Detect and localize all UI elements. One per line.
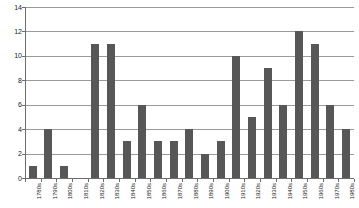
x-tick-label: 1790s — [52, 183, 58, 199]
y-tick-mark — [22, 7, 25, 8]
bar[interactable] — [185, 129, 193, 178]
x-tick-mark — [354, 179, 355, 182]
x-tick-label: 1920s — [255, 183, 261, 199]
bar[interactable] — [232, 56, 240, 178]
bar-chart: 02468101214 1780s1790s1800s1810s1820s183… — [0, 0, 359, 208]
x-tick-label: 1870s — [177, 183, 183, 199]
x-tick-label: 1960s — [318, 183, 324, 199]
x-tick-mark — [182, 179, 183, 182]
bar[interactable] — [217, 141, 225, 178]
bar-slot[interactable] — [25, 7, 41, 178]
x-tick-label: 1840s — [130, 183, 136, 199]
x-tick-mark — [307, 179, 308, 182]
y-tick-mark — [22, 154, 25, 155]
x-tick-label: 1950s — [302, 183, 308, 199]
x-tick-mark — [260, 179, 261, 182]
x-tick-label: 1850s — [146, 183, 152, 199]
bar[interactable] — [44, 129, 52, 178]
bar-slot[interactable] — [135, 7, 151, 178]
x-tick-mark — [276, 179, 277, 182]
bar-slot[interactable] — [41, 7, 57, 178]
x-tick-mark — [72, 179, 73, 182]
x-tick-mark — [213, 179, 214, 182]
bar-slot[interactable] — [182, 7, 198, 178]
bar-slot[interactable] — [150, 7, 166, 178]
bar-slot[interactable] — [56, 7, 72, 178]
x-tick-label: 1880s — [193, 183, 199, 199]
y-tick-mark — [22, 56, 25, 57]
bar[interactable] — [264, 68, 272, 178]
x-tick-label: 1910s — [240, 183, 246, 199]
bar[interactable] — [326, 105, 334, 178]
y-tick-label: 2 — [2, 150, 22, 157]
x-tick-mark — [291, 179, 292, 182]
bar-slot[interactable] — [213, 7, 229, 178]
bar[interactable] — [170, 141, 178, 178]
x-tick-mark — [323, 179, 324, 182]
x-tick-label: 1830s — [114, 183, 120, 199]
bar[interactable] — [279, 105, 287, 178]
bar-slot[interactable] — [166, 7, 182, 178]
x-tick-label: 1890s — [208, 183, 214, 199]
bar[interactable] — [295, 31, 303, 178]
bar[interactable] — [138, 105, 146, 178]
x-tick-label: 1930s — [271, 183, 277, 199]
bar-slot[interactable] — [229, 7, 245, 178]
bar-slot[interactable] — [119, 7, 135, 178]
bar[interactable] — [248, 117, 256, 178]
bar[interactable] — [107, 44, 115, 178]
y-tick-mark — [22, 80, 25, 81]
x-tick-label: 1780s — [36, 183, 42, 199]
x-tick-mark — [88, 179, 89, 182]
bar[interactable] — [342, 129, 350, 178]
bar[interactable] — [123, 141, 131, 178]
bar[interactable] — [311, 44, 319, 178]
bar-slot[interactable] — [260, 7, 276, 178]
x-tick-mark — [244, 179, 245, 182]
bar-slot[interactable] — [244, 7, 260, 178]
bar-slot[interactable] — [307, 7, 323, 178]
x-tick-mark — [166, 179, 167, 182]
x-tick-label: 1940s — [287, 183, 293, 199]
bar-slot[interactable] — [276, 7, 292, 178]
x-tick-mark — [41, 179, 42, 182]
x-tick-label: 1800s — [67, 183, 73, 199]
bar[interactable] — [29, 166, 37, 178]
y-tick-label: 14 — [2, 4, 22, 11]
y-tick-mark — [22, 129, 25, 130]
x-tick-label: 1860s — [161, 183, 167, 199]
y-tick-label: 0 — [2, 175, 22, 182]
y-tick-mark — [22, 178, 25, 179]
y-tick-mark — [22, 105, 25, 106]
bar[interactable] — [201, 154, 209, 178]
x-tick-label: 1820s — [99, 183, 105, 199]
y-tick-label: 4 — [2, 126, 22, 133]
x-tick-mark — [150, 179, 151, 182]
bar-slot[interactable] — [197, 7, 213, 178]
x-tick-label: 1980s — [349, 183, 355, 199]
x-tick-label: 1900s — [224, 183, 230, 199]
y-tick-label: 10 — [2, 52, 22, 59]
x-tick-mark — [119, 179, 120, 182]
x-tick-mark — [338, 179, 339, 182]
bar-slot[interactable] — [88, 7, 104, 178]
bar[interactable] — [154, 141, 162, 178]
x-tick-mark — [229, 179, 230, 182]
bar-slot[interactable] — [72, 7, 88, 178]
bar-slot[interactable] — [323, 7, 339, 178]
x-tick-mark — [56, 179, 57, 182]
x-tick-mark — [103, 179, 104, 182]
bar[interactable] — [91, 44, 99, 178]
y-tick-label: 12 — [2, 28, 22, 35]
x-axis-labels: 1780s1790s1800s1810s1820s1830s1840s1850s… — [25, 183, 354, 208]
bar-slot[interactable] — [103, 7, 119, 178]
y-axis-labels: 02468101214 — [0, 0, 22, 208]
x-tick-mark — [197, 179, 198, 182]
bar[interactable] — [60, 166, 68, 178]
bar-slot[interactable] — [291, 7, 307, 178]
y-tick-label: 6 — [2, 101, 22, 108]
x-tick-mark — [135, 179, 136, 182]
x-tick-label: 1810s — [83, 183, 89, 199]
bar-slot[interactable] — [338, 7, 354, 178]
x-tick-mark — [25, 179, 26, 182]
